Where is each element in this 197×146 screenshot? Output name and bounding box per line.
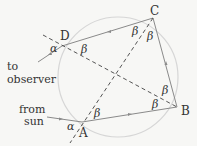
raindrop-diagram: C D B A α β β β β β β α to observer from…	[0, 0, 197, 146]
ray-sun-to-A	[47, 117, 82, 122]
beta-label-B-upper: β	[161, 84, 168, 97]
normal-line-C-A	[70, 18, 153, 143]
alpha-label-D: α	[50, 42, 58, 55]
to-observer-label-line2: observer	[7, 73, 57, 86]
beta-label-B-lower: β	[151, 98, 158, 111]
point-label-C: C	[150, 4, 159, 18]
beta-label-A: β	[93, 107, 100, 120]
beta-label-C-right: β	[146, 30, 153, 43]
from-sun-label-line2: sun	[24, 115, 44, 128]
point-label-B: B	[181, 104, 190, 118]
beta-label-D: β	[80, 43, 87, 56]
beta-label-C-left: β	[131, 25, 138, 38]
point-label-D: D	[60, 29, 70, 43]
droplet-circle	[58, 17, 178, 137]
alpha-label-A: α	[67, 120, 75, 133]
arrow-icon	[59, 118, 63, 121]
to-observer-label-line1: to	[7, 60, 18, 73]
point-label-A: A	[78, 126, 88, 140]
normal-line-D-B	[43, 35, 177, 107]
